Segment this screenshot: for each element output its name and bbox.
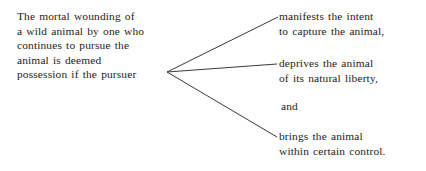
connector-line-1 bbox=[167, 17, 278, 72]
branch-2-line-1: deprives the animal bbox=[279, 56, 426, 71]
premise-line-1: The mortal wounding of bbox=[17, 9, 169, 24]
conjunction-label: and bbox=[281, 99, 426, 114]
branch-3-line-1: brings the animal bbox=[279, 129, 426, 144]
premise-line-5: possession if the pursuer bbox=[17, 67, 169, 82]
connector-line-2 bbox=[167, 64, 277, 72]
branch-1-line-2: to capture the animal, bbox=[279, 24, 426, 39]
branch-1-line-1: manifests the intent bbox=[279, 9, 426, 24]
premise-line-3: continues to pursue the bbox=[17, 38, 169, 53]
conjunction-text: and bbox=[281, 99, 426, 114]
argument-diagram: The mortal wounding of a wild animal by … bbox=[0, 0, 426, 171]
branch-2-line-2: of its natural liberty, bbox=[279, 71, 426, 86]
connector-line-3 bbox=[167, 72, 277, 137]
branch-text-block-1: manifests the intent to capture the anim… bbox=[279, 9, 426, 38]
premise-line-2: a wild animal by one who bbox=[17, 24, 169, 39]
premise-text-block: The mortal wounding of a wild animal by … bbox=[17, 9, 169, 82]
branch-text-block-2: deprives the animal of its natural liber… bbox=[279, 56, 426, 85]
branch-3-line-2: within certain control. bbox=[279, 144, 426, 159]
branch-text-block-3: brings the animal within certain control… bbox=[279, 129, 426, 158]
premise-line-4: animal is deemed bbox=[17, 53, 169, 68]
